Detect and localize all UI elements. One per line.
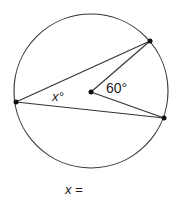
answer-prompt: x = <box>65 182 83 197</box>
circle-diagram <box>0 0 177 206</box>
point-left <box>14 100 19 105</box>
point-bottom-right <box>162 116 167 121</box>
central-angle-label: 60° <box>106 80 127 96</box>
inscribed-angle-label: x° <box>52 89 64 104</box>
center-point <box>89 90 94 95</box>
point-top-right <box>148 39 153 44</box>
chord-left-to-top <box>16 41 150 102</box>
